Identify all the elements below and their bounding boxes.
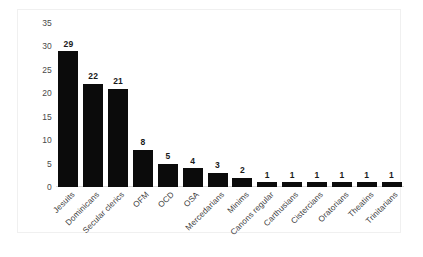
chart-frame: 05101520253035 29222185432111111 Jesuits… [17,9,401,233]
bar-value-label: 1 [329,171,354,180]
bar-value-label: 2 [230,166,255,175]
y-axis: 05101520253035 [18,23,52,187]
y-axis-tick-label: 20 [22,89,52,98]
x-label-slot: OFM [131,188,156,242]
bar[interactable] [382,182,402,187]
chart-screenshot: 05101520253035 29222185432111111 Jesuits… [0,0,423,257]
bar-slot: 1 [379,23,404,187]
bar-value-label: 21 [106,77,131,86]
x-label-slot: Trinitarians [379,188,404,242]
y-axis-tick-label: 15 [22,112,52,121]
x-axis-tick-label: OCD [157,190,176,209]
bar-slot: 2 [230,23,255,187]
bar[interactable] [158,164,178,187]
bar-value-label: 1 [379,171,404,180]
y-axis-tick-label: 5 [22,159,52,168]
bar-value-label: 1 [305,171,330,180]
bar[interactable] [232,178,252,187]
bar[interactable] [332,182,352,187]
bar[interactable] [133,150,153,187]
bar-value-label: 3 [205,161,230,170]
bar[interactable] [108,89,128,187]
bar[interactable] [257,182,277,187]
y-axis-tick-label: 10 [22,136,52,145]
bar-slot: 22 [81,23,106,187]
bar-value-label: 29 [56,40,81,49]
bar[interactable] [58,51,78,187]
bar-slot: 1 [305,23,330,187]
bar[interactable] [282,182,302,187]
x-label-slot: OCD [155,188,180,242]
bar-slot: 29 [56,23,81,187]
bar-value-label: 1 [255,171,280,180]
bar-slot: 3 [205,23,230,187]
y-axis-tick-label: 25 [22,66,52,75]
bar-slot: 4 [180,23,205,187]
bar-slot: 5 [155,23,180,187]
y-axis-tick-label: 0 [22,183,52,192]
y-axis-tick-label: 35 [22,19,52,28]
bar-value-label: 1 [354,171,379,180]
bar-slot: 1 [280,23,305,187]
bar[interactable] [307,182,327,187]
bar-slot: 21 [106,23,131,187]
bar-value-label: 5 [155,152,180,161]
x-axis-labels: JesuitsDominicansSecular clericsOFMOCDOS… [56,188,404,242]
x-label-slot: Mercedarians [205,188,230,242]
x-label-slot: Secular clerics [106,188,131,242]
bar-slot: 1 [329,23,354,187]
bar[interactable] [357,182,377,187]
bar-slot: 1 [255,23,280,187]
x-axis-tick-label: OFM [132,190,151,209]
bar[interactable] [183,168,203,187]
bar-value-label: 22 [81,72,106,81]
bar[interactable] [208,173,228,187]
bar-slot: 1 [354,23,379,187]
bar-value-label: 8 [131,138,156,147]
y-axis-tick-label: 30 [22,42,52,51]
plot-area: 29222185432111111 [56,23,404,187]
bar[interactable] [83,84,103,187]
bar-value-label: 4 [180,157,205,166]
bar-slot: 8 [131,23,156,187]
x-axis-tick-label: OSA [182,190,201,209]
bar-value-label: 1 [280,171,305,180]
